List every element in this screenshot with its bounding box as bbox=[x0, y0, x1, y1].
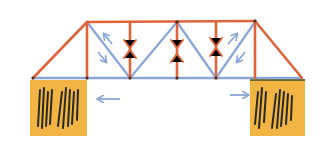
right-support bbox=[250, 80, 305, 136]
truss-bridge-diagram bbox=[0, 0, 333, 144]
diagonals bbox=[87, 22, 255, 78]
chord-pull-arrows bbox=[98, 95, 248, 99]
compression-marks bbox=[124, 38, 222, 62]
top-chord bbox=[87, 21, 255, 22]
joints bbox=[31, 19, 256, 79]
left-end-post bbox=[33, 22, 87, 78]
compression-members bbox=[33, 21, 302, 78]
right-end-post bbox=[255, 21, 302, 78]
left-support bbox=[30, 80, 87, 136]
